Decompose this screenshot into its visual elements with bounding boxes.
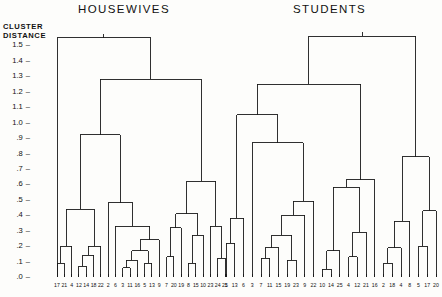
leaf-label: 1 bbox=[225, 282, 228, 288]
leaf-label: 9 bbox=[303, 282, 306, 288]
dendrogram-figure: { "figure": { "axis_caption_line1": "CLU… bbox=[0, 0, 442, 297]
leaf-label: 20 bbox=[171, 282, 177, 288]
leaf-label: 17 bbox=[424, 282, 430, 288]
leaf-label: 9 bbox=[158, 282, 161, 288]
leaf-label: 13 bbox=[149, 282, 155, 288]
leaf-label: 3 bbox=[121, 282, 124, 288]
leaf-label: 21 bbox=[363, 282, 369, 288]
leaf-label: 17 bbox=[54, 282, 60, 288]
leaf-label: 23 bbox=[293, 282, 299, 288]
leaf-label: 13 bbox=[232, 282, 238, 288]
leaf-label: 15 bbox=[276, 282, 282, 288]
dendrogram-canvas bbox=[0, 0, 442, 297]
leaf-label: 5 bbox=[143, 282, 146, 288]
leaf-label: 21 bbox=[61, 282, 67, 288]
leaf-label: 18 bbox=[91, 282, 97, 288]
leaf-label: 15 bbox=[193, 282, 199, 288]
leaf-label: 6 bbox=[114, 282, 117, 288]
leaf-label: 11 bbox=[267, 282, 272, 288]
leaf-label: 6 bbox=[242, 282, 245, 288]
leaf-label: 14 bbox=[328, 282, 334, 288]
leaf-label: 3 bbox=[251, 282, 254, 288]
leaf-label: 5 bbox=[417, 282, 420, 288]
leaf-label: 10 bbox=[319, 282, 325, 288]
leaf-label: 25 bbox=[337, 282, 343, 288]
leaf-label: 14 bbox=[83, 282, 89, 288]
leaf-label: 2 bbox=[107, 282, 110, 288]
leaf-label: 16 bbox=[372, 282, 378, 288]
leaf-label: 12 bbox=[76, 282, 82, 288]
leaf-label: 20 bbox=[433, 282, 439, 288]
leaf-label: 4 bbox=[347, 282, 350, 288]
leaf-label: 23 bbox=[208, 282, 214, 288]
leaf-label: 12 bbox=[354, 282, 360, 288]
leaf-label: 10 bbox=[200, 282, 206, 288]
leaf-label: 2 bbox=[382, 282, 385, 288]
leaf-label: 24 bbox=[215, 282, 221, 288]
leaf-label: 22 bbox=[98, 282, 104, 288]
leaf-label: 8 bbox=[408, 282, 411, 288]
leaf-label: 4 bbox=[70, 282, 73, 288]
leaf-label: 19 bbox=[178, 282, 184, 288]
leaf-label: 11 bbox=[127, 282, 132, 288]
leaf-label: 22 bbox=[311, 282, 317, 288]
leaf-label: 16 bbox=[134, 282, 140, 288]
leaf-label: 18 bbox=[389, 282, 395, 288]
leaf-label: 4 bbox=[400, 282, 403, 288]
leaf-label: 19 bbox=[284, 282, 290, 288]
leaf-label: 8 bbox=[187, 282, 190, 288]
leaf-label: 7 bbox=[165, 282, 168, 288]
leaf-label: 7 bbox=[260, 282, 263, 288]
